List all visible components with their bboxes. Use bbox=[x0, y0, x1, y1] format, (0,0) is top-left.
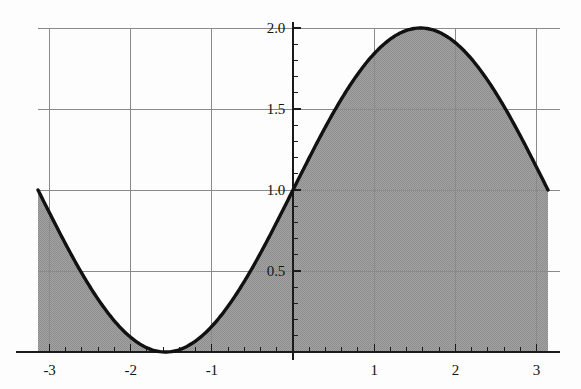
x-tick-label-3: 3 bbox=[533, 362, 540, 379]
y-tick-label-0.5: 0.5 bbox=[251, 263, 285, 280]
y-tick-label-1: 1.0 bbox=[251, 182, 285, 199]
plot-canvas bbox=[0, 0, 581, 389]
chart-figure: -3-2-1123 0.51.01.52.0 bbox=[0, 0, 581, 389]
y-tick-label-1.5: 1.5 bbox=[251, 101, 285, 118]
x-tick-label--1: -1 bbox=[206, 362, 218, 379]
y-tick-label-2: 2.0 bbox=[251, 20, 285, 37]
x-tick-label-2: 2 bbox=[452, 362, 459, 379]
x-tick-label--2: -2 bbox=[125, 362, 137, 379]
x-tick-label-1: 1 bbox=[371, 362, 378, 379]
x-tick-label--3: -3 bbox=[43, 362, 55, 379]
